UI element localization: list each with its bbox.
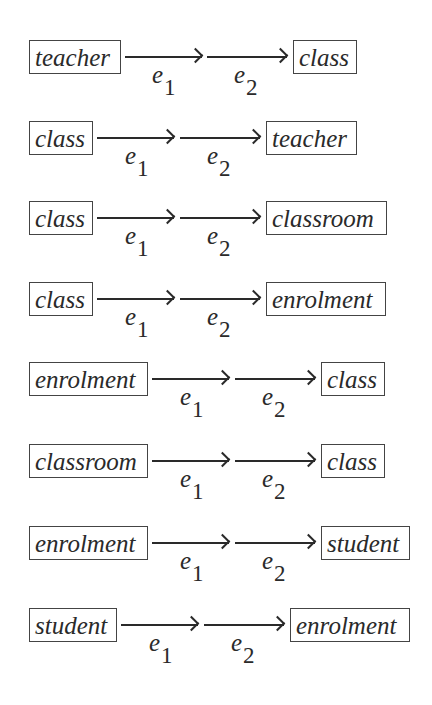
edge-arrow-e1	[121, 624, 198, 626]
source-entity-box: class	[29, 282, 93, 316]
target-entity-label: teacher	[272, 122, 347, 156]
edge-arrow-e2	[204, 624, 284, 626]
edge-label-e1: e1	[180, 384, 204, 422]
path-row: teacher e1 e2 class	[0, 40, 432, 100]
target-entity-box: classroom	[266, 201, 387, 235]
edge-arrow-e1	[152, 542, 229, 544]
target-entity-label: class	[327, 445, 377, 479]
edge-label-e1: e1	[152, 62, 176, 100]
edge-label-e2: e2	[262, 548, 286, 586]
edge-arrow-e2	[235, 378, 315, 380]
edge-label-e2: e2	[231, 630, 255, 668]
target-entity-box: enrolment	[266, 282, 386, 316]
path-row: class e1 e2 teacher	[0, 121, 432, 181]
source-entity-box: student	[29, 608, 117, 642]
edge-arrow-e2	[180, 137, 260, 139]
target-entity-label: classroom	[272, 202, 374, 236]
target-entity-box: enrolment	[290, 608, 410, 642]
edge-label-e1: e1	[180, 466, 204, 504]
edge-label-e1: e1	[149, 630, 173, 668]
edge-arrow-e1	[125, 56, 202, 58]
source-entity-box: enrolment	[29, 362, 148, 396]
path-row: enrolment e1 e2 student	[0, 526, 432, 586]
source-entity-label: class	[35, 122, 85, 156]
edge-arrow-e1	[97, 137, 174, 139]
source-entity-label: class	[35, 202, 85, 236]
source-entity-label: classroom	[35, 445, 137, 479]
target-entity-label: class	[327, 363, 377, 397]
target-entity-box: class	[321, 362, 385, 396]
edge-label-e2: e2	[207, 304, 231, 342]
target-entity-label: class	[299, 41, 349, 75]
edge-label-e1: e1	[125, 223, 149, 261]
path-row: class e1 e2 classroom	[0, 201, 432, 261]
edge-arrow-e2	[180, 217, 260, 219]
edge-arrow-e2	[235, 460, 315, 462]
target-entity-label: student	[327, 527, 399, 561]
path-row: student e1 e2 enrolment	[0, 608, 432, 668]
target-entity-label: enrolment	[272, 283, 372, 317]
target-entity-box: class	[293, 40, 357, 74]
target-entity-label: enrolment	[296, 609, 396, 643]
edge-label-e2: e2	[262, 466, 286, 504]
source-entity-label: enrolment	[35, 527, 135, 561]
edge-arrow-e1	[152, 378, 229, 380]
edge-label-e2: e2	[207, 223, 231, 261]
edge-label-e1: e1	[125, 143, 149, 181]
edge-label-e2: e2	[207, 143, 231, 181]
source-entity-box: class	[29, 121, 93, 155]
target-entity-box: class	[321, 444, 385, 478]
edge-arrow-e1	[97, 298, 174, 300]
source-entity-box: enrolment	[29, 526, 148, 560]
target-entity-box: student	[321, 526, 410, 560]
edge-arrow-e2	[235, 542, 315, 544]
source-entity-box: class	[29, 201, 93, 235]
path-row: enrolment e1 e2 class	[0, 362, 432, 422]
edge-label-e1: e1	[125, 304, 149, 342]
path-row: classroom e1 e2 class	[0, 444, 432, 504]
source-entity-box: classroom	[29, 444, 148, 478]
source-entity-label: teacher	[35, 41, 110, 75]
source-entity-label: student	[35, 609, 107, 643]
path-row: class e1 e2 enrolment	[0, 282, 432, 342]
edge-label-e2: e2	[262, 384, 286, 422]
edge-arrow-e1	[97, 217, 174, 219]
edge-label-e2: e2	[234, 62, 258, 100]
source-entity-label: enrolment	[35, 363, 135, 397]
edge-arrow-e2	[207, 56, 287, 58]
edge-arrow-e2	[180, 298, 260, 300]
target-entity-box: teacher	[266, 121, 357, 155]
edge-label-e1: e1	[180, 548, 204, 586]
source-entity-box: teacher	[29, 40, 121, 74]
edge-arrow-e1	[152, 460, 229, 462]
source-entity-label: class	[35, 283, 85, 317]
